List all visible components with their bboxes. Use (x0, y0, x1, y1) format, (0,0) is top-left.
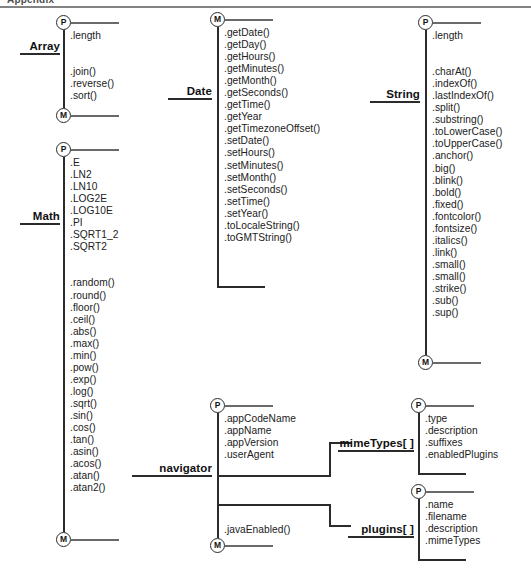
member-item: .cos() (70, 422, 118, 434)
mimetypes-spine (418, 413, 420, 475)
member-item: .indexOf() (432, 78, 502, 90)
member-item: .javaEnabled() (224, 524, 290, 536)
date-bottom-stub (217, 286, 265, 288)
math-method-node: M (56, 532, 71, 547)
member-item: .setYear() (224, 208, 320, 220)
group-label-date: Date (168, 85, 212, 100)
member-spacer (70, 54, 114, 66)
member-item: .getMonth() (224, 75, 320, 87)
member-item: .asin() (70, 446, 118, 458)
member-item: .description (425, 425, 498, 437)
member-item: .setMonth() (224, 172, 320, 184)
member-item: .small() (432, 271, 502, 283)
array-bottom-stub (71, 115, 119, 117)
member-item: .setTime() (224, 196, 320, 208)
member-item: .setMinutes() (224, 160, 320, 172)
date-method-node: M (210, 12, 225, 27)
member-item: .LOG10E (70, 205, 118, 217)
member-item: .small() (432, 259, 502, 271)
mimetypes-top-stub (426, 405, 474, 407)
navigator-top-stub (225, 405, 273, 407)
member-item: .getTime() (224, 99, 320, 111)
math-property-node: P (56, 142, 71, 157)
member-item: .exp() (70, 374, 118, 386)
array-top-stub (71, 22, 119, 24)
plugins-top-stub (426, 491, 474, 493)
page-header-rule (0, 6, 531, 8)
group-label-math: Math (20, 210, 60, 225)
navigator-property-node: P (210, 398, 225, 413)
page-header-text: Appendix (7, 0, 54, 5)
member-item: .getMinutes() (224, 63, 320, 75)
string-member-list: .length .charAt() .indexOf() .lastIndexO… (432, 30, 502, 319)
member-item: .appVersion (224, 437, 296, 449)
member-item: .reverse() (70, 78, 114, 90)
member-spacer (432, 54, 502, 66)
member-item: .min() (70, 350, 118, 362)
member-item: .random() (70, 277, 118, 289)
group-label-array: Array (20, 40, 60, 55)
string-method-node: M (418, 355, 433, 370)
member-item: .strike() (432, 283, 502, 295)
plugins-spine (418, 499, 420, 561)
member-spacer (70, 42, 114, 54)
group-label-navigator: navigator (132, 462, 212, 477)
member-item: .fontcolor() (432, 211, 502, 223)
member-item: .name (425, 499, 480, 511)
member-item: .charAt() (432, 66, 502, 78)
member-item: .suffixes (425, 437, 498, 449)
member-item: .LN2 (70, 169, 118, 181)
math-top-stub (71, 149, 119, 151)
member-item: .fontsize() (432, 223, 502, 235)
array-spine (63, 30, 65, 108)
member-item: .toGMTString() (224, 232, 320, 244)
member-item: .LN10 (70, 181, 118, 193)
member-item: .userAgent (224, 449, 296, 461)
member-item: .SQRT2 (70, 241, 118, 253)
member-item: .fixed() (432, 199, 502, 211)
member-item: .PI (70, 217, 118, 229)
member-item: .ceil() (70, 314, 118, 326)
member-item: .enabledPlugins (425, 449, 498, 461)
member-item: .filename (425, 511, 480, 523)
member-item: .getYear (224, 111, 320, 123)
member-item: .substring() (432, 114, 502, 126)
member-item: .length (70, 30, 114, 42)
member-item: .max() (70, 338, 118, 350)
page-header-artifact: Appendix (0, 0, 531, 9)
group-label-string: String (370, 88, 420, 103)
member-item: .blink() (432, 175, 502, 187)
string-top-stub (433, 22, 481, 24)
math-bottom-stub (71, 539, 119, 541)
date-top-stub (225, 19, 273, 21)
member-item: .big() (432, 163, 502, 175)
member-item: .getTimezoneOffset() (224, 123, 320, 135)
member-item: .toLowerCase() (432, 126, 502, 138)
date-spine (217, 27, 219, 288)
member-item: .bold() (432, 187, 502, 199)
member-item: .tan() (70, 434, 118, 446)
member-item: .link() (432, 247, 502, 259)
member-item: .length (432, 30, 502, 42)
object-model-diagram: Appendix P M Array .length .join() .reve… (0, 0, 531, 569)
mimetypes-member-list: .type .description .suffixes .enabledPlu… (425, 413, 498, 461)
array-member-list: .length .join() .reverse() .sort() (70, 30, 114, 102)
member-item: .sort() (70, 90, 114, 102)
math-spine (63, 157, 65, 532)
member-item: .log() (70, 386, 118, 398)
group-label-plugins: plugins[ ] (348, 523, 414, 538)
member-item: .round() (70, 290, 118, 302)
member-item: .appCodeName (224, 413, 296, 425)
navigator-method-list: .javaEnabled() (224, 524, 290, 536)
member-item: .type (425, 413, 498, 425)
member-item: .getDate() (224, 27, 320, 39)
member-item: .sin() (70, 410, 118, 422)
member-item: .sub() (432, 295, 502, 307)
member-item: .toUpperCase() (432, 138, 502, 150)
plugins-bottom-stub (418, 559, 466, 561)
math-member-list: .E .LN2 .LN10 .LOG2E .LOG10E .PI .SQRT1_… (70, 157, 118, 494)
connector-navigator-to-plugins-h (217, 504, 331, 506)
connector-navigator-to-mimetypes-h (217, 475, 331, 477)
member-item: .mimeTypes (425, 535, 480, 547)
mimetypes-property-node: P (411, 398, 426, 413)
